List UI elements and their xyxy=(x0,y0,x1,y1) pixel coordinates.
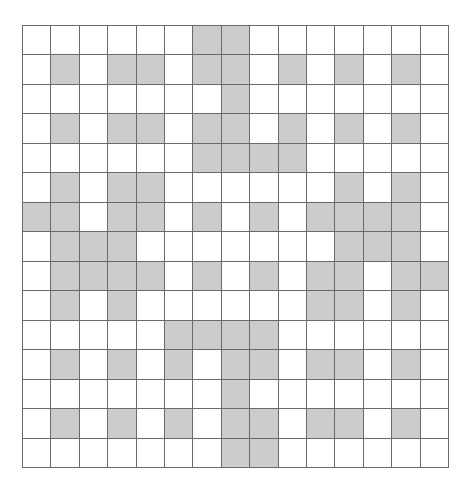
grid-cell-shaded xyxy=(51,262,79,291)
grid-cell-shaded xyxy=(364,203,392,232)
grid-cell-empty xyxy=(193,439,221,468)
grid-cell-empty xyxy=(392,144,420,173)
grid-cell-empty xyxy=(250,291,278,320)
grid-cell-shaded xyxy=(421,262,449,291)
grid-cell-shaded xyxy=(80,232,108,261)
grid-cell-shaded xyxy=(307,409,335,438)
grid-cell-empty xyxy=(80,321,108,350)
grid-cell-shaded xyxy=(108,173,136,202)
grid-cell-shaded xyxy=(222,321,250,350)
grid-cell-empty xyxy=(279,409,307,438)
grid-cell-shaded xyxy=(335,232,363,261)
grid-cell-shaded xyxy=(392,409,420,438)
grid-cell-empty xyxy=(51,26,79,55)
grid-cell-empty xyxy=(279,262,307,291)
grid-cell-shaded xyxy=(108,232,136,261)
grid-cell-shaded xyxy=(222,350,250,379)
grid-cell-shaded xyxy=(335,262,363,291)
grid-cell-empty xyxy=(108,26,136,55)
grid-cell-empty xyxy=(23,85,51,114)
grid-cell-shaded xyxy=(51,350,79,379)
grid-cell-shaded xyxy=(392,114,420,143)
grid-cell-empty xyxy=(23,55,51,84)
grid-cell-shaded xyxy=(335,173,363,202)
grid-cell-empty xyxy=(137,144,165,173)
grid-cell-shaded xyxy=(193,114,221,143)
grid-cell-shaded xyxy=(250,262,278,291)
grid-cell-empty xyxy=(137,380,165,409)
grid-cell-empty xyxy=(108,321,136,350)
grid-cell-empty xyxy=(137,232,165,261)
grid-cell-shaded xyxy=(392,291,420,320)
grid-cell-empty xyxy=(80,114,108,143)
grid-cell-empty xyxy=(335,321,363,350)
grid-cell-shaded xyxy=(307,203,335,232)
grid-cell-empty xyxy=(307,321,335,350)
grid-cell-empty xyxy=(421,85,449,114)
grid-cell-empty xyxy=(250,232,278,261)
grid-cell-shaded xyxy=(222,85,250,114)
grid-cell-empty xyxy=(421,144,449,173)
grid-cell-empty xyxy=(364,321,392,350)
grid-cell-empty xyxy=(165,114,193,143)
grid-cell-shaded xyxy=(51,55,79,84)
grid-cell-empty xyxy=(193,85,221,114)
grid-cell-shaded xyxy=(335,203,363,232)
grid-cell-empty xyxy=(108,439,136,468)
grid-cell-empty xyxy=(80,203,108,232)
grid-cell-shaded xyxy=(51,203,79,232)
grid-cell-empty xyxy=(307,380,335,409)
grid-cell-empty xyxy=(165,26,193,55)
grid-cell-shaded xyxy=(392,55,420,84)
grid-cell-empty xyxy=(51,144,79,173)
grid-cell-shaded xyxy=(193,262,221,291)
grid-cell-empty xyxy=(137,439,165,468)
grid-cell-empty xyxy=(165,262,193,291)
grid-cell-empty xyxy=(392,380,420,409)
grid-cell-empty xyxy=(51,439,79,468)
grid-cell-empty xyxy=(364,55,392,84)
grid-cell-empty xyxy=(279,321,307,350)
grid-cell-empty xyxy=(80,409,108,438)
grid-cell-shaded xyxy=(51,291,79,320)
grid-cell-empty xyxy=(279,173,307,202)
grid-cell-empty xyxy=(335,144,363,173)
grid-cell-empty xyxy=(250,55,278,84)
grid-cell-empty xyxy=(80,144,108,173)
grid-cell-empty xyxy=(421,321,449,350)
grid-cell-shaded xyxy=(222,144,250,173)
grid-cell-empty xyxy=(364,144,392,173)
grid-cell-empty xyxy=(307,232,335,261)
grid-cell-shaded xyxy=(392,203,420,232)
grid-cell-empty xyxy=(165,144,193,173)
grid-cell-empty xyxy=(279,85,307,114)
grid-cell-empty xyxy=(23,291,51,320)
grid-cell-shaded xyxy=(193,55,221,84)
grid-cell-empty xyxy=(307,144,335,173)
grid-cell-empty xyxy=(108,144,136,173)
grid-cell-shaded xyxy=(392,173,420,202)
grid-cell-shaded xyxy=(335,291,363,320)
grid-cell-shaded xyxy=(250,439,278,468)
grid-cell-shaded xyxy=(335,55,363,84)
grid-cell-empty xyxy=(80,55,108,84)
grid-cell-empty xyxy=(23,232,51,261)
grid-cell-empty xyxy=(421,439,449,468)
grid-cell-shaded xyxy=(108,409,136,438)
grid-cell-empty xyxy=(421,173,449,202)
grid-cell-shaded xyxy=(137,203,165,232)
grid-cell-shaded xyxy=(279,55,307,84)
grid-cell-shaded xyxy=(165,409,193,438)
grid-cell-shaded xyxy=(51,173,79,202)
grid-cell-empty xyxy=(364,114,392,143)
grid-cell-empty xyxy=(250,114,278,143)
grid-cell-shaded xyxy=(335,114,363,143)
grid-cell-shaded xyxy=(165,350,193,379)
grid-cell-shaded xyxy=(137,114,165,143)
grid-cell-empty xyxy=(364,173,392,202)
grid-cell-empty xyxy=(421,380,449,409)
grid-cell-empty xyxy=(335,26,363,55)
grid-cell-empty xyxy=(165,55,193,84)
grid-cell-empty xyxy=(193,350,221,379)
grid-cell-shaded xyxy=(250,203,278,232)
